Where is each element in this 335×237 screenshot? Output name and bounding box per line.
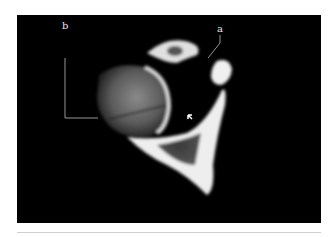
divider <box>17 232 321 233</box>
label-b: b <box>62 21 68 31</box>
ct-anatomy-drawing <box>17 15 321 223</box>
ct-image: b a <box>17 15 321 223</box>
arrow-icon <box>188 115 192 119</box>
label-a-leader <box>208 35 220 58</box>
label-a: a <box>217 24 223 34</box>
coracoid <box>147 40 199 63</box>
label-b-leader <box>65 58 98 118</box>
acromion <box>211 60 232 85</box>
humeral-head <box>97 65 169 137</box>
